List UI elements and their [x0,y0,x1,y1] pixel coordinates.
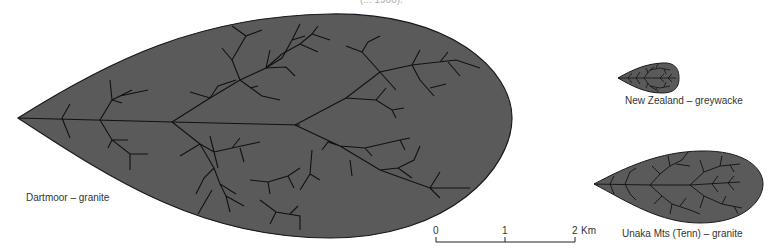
unaka-label: Unaka Mts (Tenn) – granite [622,228,743,239]
new-zealand-basin [618,63,679,93]
drainage-basin-diagram [0,0,776,251]
scale-unit: Km [581,225,596,236]
new-zealand-label: New Zealand – greywacke [625,95,743,106]
scale-tick-1: 1 [502,225,508,236]
scale-tick-2: 2 [572,225,578,236]
unaka-basin [594,151,763,223]
dartmoor-label: Dartmoor – granite [26,192,109,203]
scale-tick-0: 0 [433,225,439,236]
dartmoor-basin [18,14,512,238]
scale-bar [436,237,575,242]
